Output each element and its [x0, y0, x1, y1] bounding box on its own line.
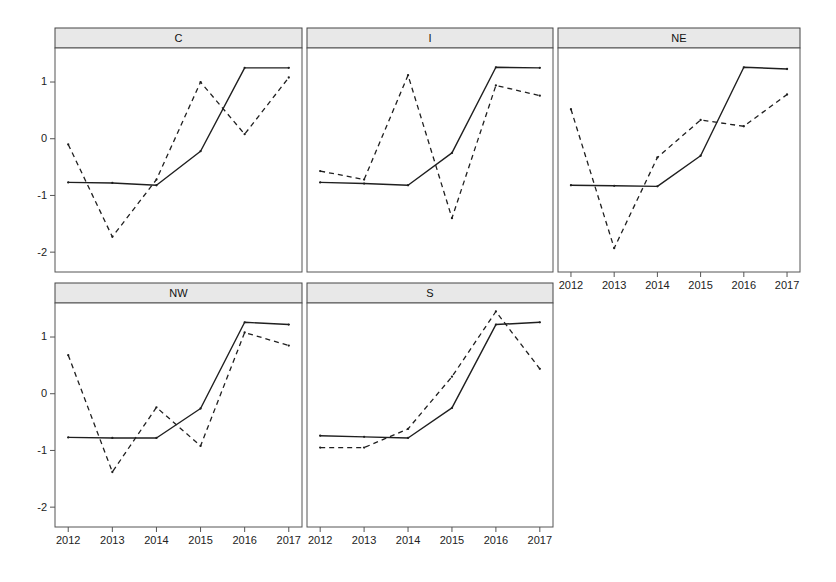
panel-plot-area-nw	[55, 303, 302, 527]
data-point	[199, 407, 201, 409]
y-tick-label: 1	[41, 75, 47, 87]
panel-c: C10-1-2	[37, 28, 302, 272]
data-point	[656, 156, 658, 158]
x-tick-label: 2015	[440, 534, 464, 546]
x-tick-label: 2012	[559, 279, 583, 291]
panel-title-i: I	[428, 32, 431, 44]
data-point	[288, 67, 290, 69]
data-point	[111, 471, 113, 473]
trellis-chart-figure: C10-1-2INE201220132014201520162017NW10-1…	[0, 0, 836, 582]
data-point	[699, 119, 701, 121]
data-point	[199, 150, 201, 152]
x-tick-label: 2012	[56, 534, 80, 546]
data-point	[539, 321, 541, 323]
lattice-panel-svg: C10-1-2INE201220132014201520162017NW10-1…	[0, 0, 836, 582]
data-point	[451, 152, 453, 154]
panel-title-ne: NE	[671, 32, 686, 44]
x-tick-label: 2012	[308, 534, 332, 546]
data-point	[743, 66, 745, 68]
x-tick-label: 2015	[688, 279, 712, 291]
data-point	[451, 407, 453, 409]
data-point	[407, 74, 409, 76]
data-point	[570, 108, 572, 110]
data-point	[244, 331, 246, 333]
data-point	[786, 68, 788, 70]
data-point	[155, 437, 157, 439]
data-point	[319, 446, 321, 448]
x-tick-label: 2017	[775, 279, 799, 291]
data-point	[199, 445, 201, 447]
data-point	[407, 437, 409, 439]
x-tick-label: 2016	[232, 534, 256, 546]
x-tick-label: 2017	[277, 534, 301, 546]
data-point	[67, 143, 69, 145]
panel-nw: NW10-1-2201220132014201520162017	[37, 283, 302, 546]
y-tick-label: -2	[37, 246, 47, 258]
panel-i: I	[307, 28, 553, 272]
data-point	[743, 125, 745, 127]
panel-plot-area-s	[307, 303, 553, 527]
data-point	[699, 155, 701, 157]
data-point	[363, 178, 365, 180]
data-point	[288, 76, 290, 78]
data-point	[363, 446, 365, 448]
x-tick-label: 2013	[100, 534, 124, 546]
data-point	[67, 354, 69, 356]
y-tick-label: -1	[37, 444, 47, 456]
data-point	[319, 181, 321, 183]
data-point	[407, 184, 409, 186]
data-point	[111, 236, 113, 238]
data-point	[539, 94, 541, 96]
panel-plot-area-i	[307, 48, 553, 272]
data-point	[244, 67, 246, 69]
data-point	[451, 376, 453, 378]
data-point	[613, 247, 615, 249]
panel-plot-area-c	[55, 48, 302, 272]
data-point	[155, 406, 157, 408]
panel-plot-area-ne	[558, 48, 800, 272]
data-point	[111, 182, 113, 184]
y-tick-label: 1	[41, 330, 47, 342]
data-point	[244, 321, 246, 323]
data-point	[613, 185, 615, 187]
x-tick-label: 2015	[188, 534, 212, 546]
data-point	[495, 310, 497, 312]
x-tick-label: 2014	[144, 534, 168, 546]
x-tick-label: 2016	[484, 534, 508, 546]
y-tick-label: 0	[41, 132, 47, 144]
data-point	[319, 435, 321, 437]
x-tick-label: 2017	[528, 534, 552, 546]
data-point	[570, 184, 572, 186]
panel-title-c: C	[175, 32, 183, 44]
data-point	[199, 81, 201, 83]
data-point	[495, 84, 497, 86]
data-point	[786, 93, 788, 95]
panel-title-s: S	[426, 287, 433, 299]
data-point	[288, 344, 290, 346]
panel-ne: NE201220132014201520162017	[558, 28, 800, 291]
data-point	[451, 217, 453, 219]
data-point	[407, 428, 409, 430]
data-point	[67, 181, 69, 183]
data-point	[495, 66, 497, 68]
x-tick-label: 2014	[396, 534, 420, 546]
x-tick-label: 2016	[732, 279, 756, 291]
data-point	[111, 437, 113, 439]
data-point	[363, 436, 365, 438]
data-point	[244, 133, 246, 135]
data-point	[539, 67, 541, 69]
data-point	[155, 178, 157, 180]
x-tick-label: 2014	[645, 279, 669, 291]
data-point	[155, 184, 157, 186]
data-point	[539, 368, 541, 370]
data-point	[656, 185, 658, 187]
data-point	[363, 182, 365, 184]
y-tick-label: 0	[41, 387, 47, 399]
y-tick-label: -2	[37, 501, 47, 513]
y-tick-label: -1	[37, 189, 47, 201]
data-point	[67, 436, 69, 438]
data-point	[288, 323, 290, 325]
data-point	[495, 323, 497, 325]
panel-title-nw: NW	[169, 287, 188, 299]
x-tick-label: 2013	[602, 279, 626, 291]
